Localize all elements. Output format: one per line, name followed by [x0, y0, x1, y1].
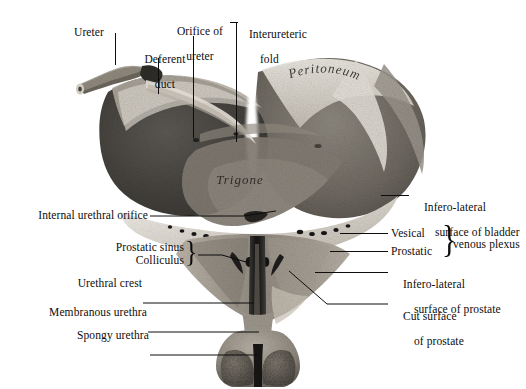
label-infero-lateral-bladder-line1: Infero-lateral: [424, 201, 486, 213]
label-cut-surface-prostate-line1: Cut surface: [403, 310, 457, 322]
label-cut-surface-prostate-line2: of prostate: [403, 335, 464, 348]
label-prostatic: Prostatic: [391, 245, 432, 258]
label-infero-lateral-prostate-line1: Infero-lateral: [403, 278, 465, 290]
label-orifice-of-ureter: Orifice of ureter: [156, 12, 232, 75]
label-membranous-urethra: Membranous urethra: [4, 306, 147, 319]
label-colliculus: Colliculus: [44, 254, 184, 267]
label-spongy-urethra: Spongy urethra: [4, 329, 149, 342]
label-internal-urethral-orifice: Internal urethral orifice: [6, 209, 148, 222]
label-urethral-crest: Urethral crest: [4, 277, 142, 290]
label-cut-surface-prostate: Cut surface of prostate: [391, 297, 464, 360]
label-infero-lateral-bladder-line2: surface of bladder: [424, 226, 520, 239]
label-orifice-of-ureter-line1: Orifice of: [177, 25, 223, 37]
trigone-caption: Trigone: [216, 172, 263, 187]
label-prostatic-sinus: Prostatic sinus: [44, 241, 184, 254]
leader-infero-lateral-prostate: [315, 272, 388, 273]
right-wall-orifice: [314, 144, 321, 148]
figure-canvas: Peritoneum Trigone Ureter Deferent duct …: [0, 0, 526, 389]
leader-ureter: [115, 33, 116, 65]
label-orifice-of-ureter-line2: ureter: [186, 50, 213, 62]
spongy-urethra-lumen: [253, 344, 263, 387]
label-vesical: Vesical: [391, 227, 425, 240]
leader-infero-lateral-bladder: [381, 195, 409, 196]
prostatic-sinus-brace: }: [185, 237, 197, 267]
label-ureter: Ureter: [74, 26, 104, 39]
label-interureteric-fold-line2: fold: [249, 53, 279, 66]
label-interureteric-fold: Interureteric fold: [237, 15, 307, 78]
label-interureteric-fold-line1: Interureteric: [249, 28, 307, 40]
left-ureteric-orifice: [193, 138, 199, 142]
leader-prostatic: [330, 251, 388, 252]
label-venous-plexus: venous plexus: [453, 238, 520, 251]
leader-vesical: [340, 233, 388, 234]
label-deferent-duct-line2: duct: [155, 78, 175, 90]
